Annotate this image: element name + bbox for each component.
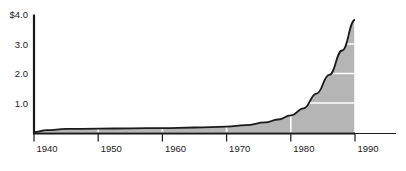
area-chart: $4.03.02.01.0 194019501960197019801990: [0, 0, 406, 171]
x-axis-tick-label: 1990: [358, 143, 379, 154]
x-axis-tick-label: 1970: [229, 143, 250, 154]
y-axis-tick-label: $4.0: [10, 9, 29, 20]
y-axis-tick-label: 3.0: [15, 39, 28, 50]
y-axis-tick-label: 2.0: [15, 68, 28, 79]
x-axis-tick-label: 1980: [293, 143, 314, 154]
y-axis-tick-label: 1.0: [15, 98, 28, 109]
x-axis-tick-label: 1960: [165, 143, 186, 154]
x-axis-tick-label: 1950: [101, 143, 122, 154]
x-axis-tick-label: 1940: [37, 143, 58, 154]
chart-canvas: $4.03.02.01.0 194019501960197019801990: [0, 0, 406, 171]
